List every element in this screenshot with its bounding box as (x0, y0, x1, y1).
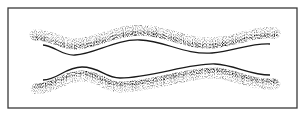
figure-container (0, 0, 308, 114)
lower-wavy-band (36, 64, 275, 89)
wavy-bands-illustration (0, 0, 308, 114)
figure-frame (8, 8, 297, 108)
upper-wavy-band (35, 30, 275, 55)
